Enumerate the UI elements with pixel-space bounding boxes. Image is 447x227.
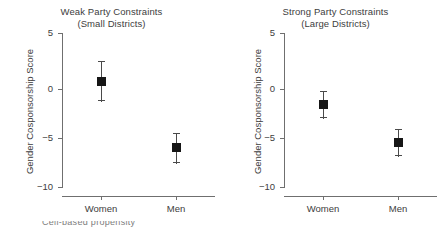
error-cap-men-upper [395,129,402,130]
y-tick-label-neg5: −5 [245,132,275,143]
panel-title-line1: Weak Party Constraints [0,6,223,18]
data-point-women [97,77,106,86]
y-tick-0 [58,89,62,90]
y-tick-neg5 [280,138,284,139]
clipped-caption-text: Cell-based propensity [42,221,135,227]
y-axis-label: Gender Cosponsorship Score [252,37,263,187]
x-tick-women [323,196,324,200]
error-cap-men-lower [173,162,180,163]
panel-strong-party-constraints: Strong Party Constraints (Large District… [224,0,447,227]
data-point-men [394,138,403,147]
x-tick-women [101,196,102,200]
y-tick-neg5 [58,138,62,139]
error-cap-women-lower [320,117,327,118]
y-axis-label: Gender Cosponsorship Score [24,37,35,187]
panel-weak-party-constraints: Weak Party Constraints (Small Districts)… [0,0,223,227]
x-tick-label-men: Men [141,203,211,214]
y-tick-neg10 [280,187,284,188]
y-tick-label-neg10: −10 [23,181,53,192]
x-axis-line [62,196,215,197]
y-tick-5 [280,33,284,34]
y-tick-label-neg5: −5 [23,132,53,143]
x-tick-label-men: Men [363,203,433,214]
data-point-women [319,100,328,109]
x-axis-line [284,196,437,197]
x-tick-men [398,196,399,200]
y-axis-line [62,33,63,188]
y-tick-0 [280,89,284,90]
y-tick-5 [58,33,62,34]
y-tick-label-0: 0 [23,83,53,94]
y-axis-line [284,33,285,188]
y-tick-label-neg10: −10 [245,181,275,192]
error-cap-women-upper [320,91,327,92]
error-cap-men-lower [395,155,402,156]
y-tick-label-0: 0 [245,83,275,94]
y-tick-label-5: 5 [23,27,53,38]
error-cap-women-lower [98,100,105,101]
error-cap-men-upper [173,133,180,134]
figure-container: Weak Party Constraints (Small Districts)… [0,0,447,227]
panel-title-line1: Strong Party Constraints [224,6,447,18]
y-tick-label-5: 5 [245,27,275,38]
x-tick-men [176,196,177,200]
clipped-caption-strip: Cell-based propensity [0,221,447,227]
error-cap-women-upper [98,61,105,62]
x-tick-label-women: Women [288,203,358,214]
x-tick-label-women: Women [66,203,136,214]
y-tick-neg10 [58,187,62,188]
data-point-men [172,143,181,152]
